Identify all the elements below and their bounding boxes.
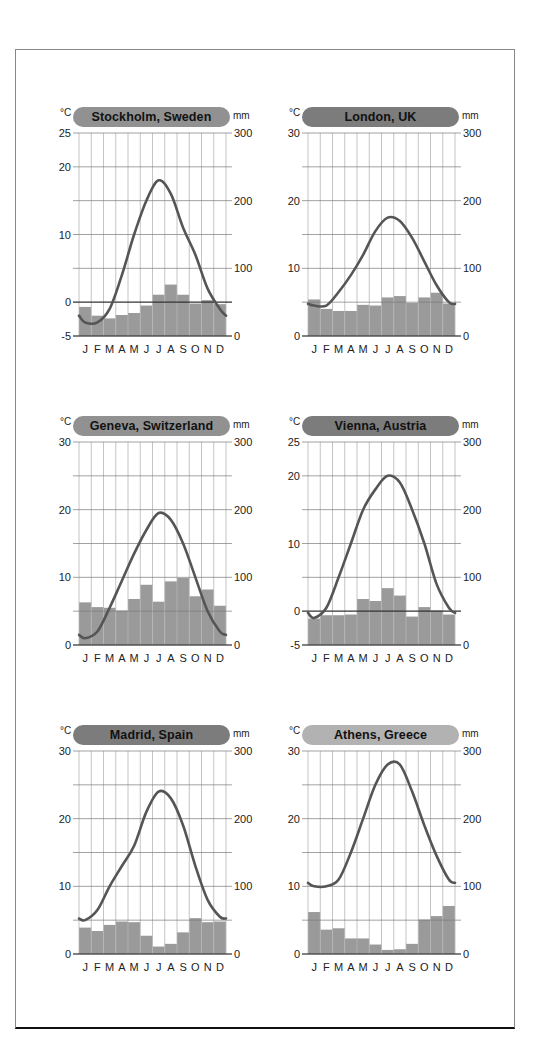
precip-bar xyxy=(418,919,430,954)
month-label: A xyxy=(396,961,404,973)
month-label: F xyxy=(94,652,101,664)
month-label: J xyxy=(156,961,162,973)
precip-bar xyxy=(116,922,128,954)
precip-bar xyxy=(140,306,152,336)
month-label: F xyxy=(94,961,101,973)
chart-plot: -501020250100200300JFMAMJJASOND xyxy=(287,414,507,704)
precip-bar xyxy=(153,602,165,645)
temp-tick-label: 30 xyxy=(59,745,71,757)
temp-tick-label: 10 xyxy=(288,262,300,274)
month-label: S xyxy=(408,961,415,973)
month-label: A xyxy=(347,961,355,973)
precip-bar xyxy=(382,588,394,645)
precip-tick-label: 200 xyxy=(234,195,252,207)
precip-bar xyxy=(165,285,177,336)
month-label: O xyxy=(420,961,429,973)
temp-tick-label: 20 xyxy=(288,470,300,482)
climate-chart-athens: Athens, Greece°Cmm01020300100200300JFMAM… xyxy=(287,723,507,1013)
precip-bar xyxy=(333,311,345,336)
temp-tick-label: 20 xyxy=(288,195,300,207)
month-label: J xyxy=(82,961,88,973)
month-label: M xyxy=(130,343,139,355)
precip-bar xyxy=(394,949,406,954)
precip-tick-label: 0 xyxy=(234,639,240,651)
temp-tick-label: 0 xyxy=(294,605,300,617)
precip-tick-label: 100 xyxy=(463,571,481,583)
month-label: S xyxy=(179,652,186,664)
month-label: J xyxy=(144,652,150,664)
month-label: O xyxy=(191,343,200,355)
month-label: F xyxy=(323,343,330,355)
precip-tick-label: 200 xyxy=(463,195,481,207)
month-label: J xyxy=(385,343,391,355)
precip-bar xyxy=(308,619,320,645)
month-label: M xyxy=(334,343,343,355)
precip-tick-label: 100 xyxy=(234,571,252,583)
month-label: J xyxy=(144,343,150,355)
precip-bar xyxy=(357,305,369,336)
precip-bar xyxy=(345,938,357,954)
month-label: M xyxy=(105,343,114,355)
month-label: M xyxy=(334,652,343,664)
temp-tick-label: 25 xyxy=(288,436,300,448)
precip-tick-label: 300 xyxy=(463,127,481,139)
temp-tick-label: 0 xyxy=(65,639,71,651)
precip-tick-label: 300 xyxy=(463,436,481,448)
temp-tick-label: 20 xyxy=(59,813,71,825)
month-label: F xyxy=(323,961,330,973)
precip-bar xyxy=(202,922,214,954)
temp-tick-label: 10 xyxy=(59,880,71,892)
month-label: F xyxy=(323,652,330,664)
precip-bar xyxy=(308,912,320,954)
month-label: J xyxy=(156,343,162,355)
chart-plot: 01020300100200300JFMAMJJASOND xyxy=(58,723,278,1013)
month-label: J xyxy=(385,961,391,973)
month-label: J xyxy=(82,343,88,355)
month-label: J xyxy=(385,652,391,664)
month-label: J xyxy=(311,652,317,664)
precip-bar xyxy=(189,918,201,954)
temp-tick-label: 20 xyxy=(59,504,71,516)
precip-tick-label: 0 xyxy=(463,330,469,342)
precip-bar xyxy=(382,950,394,954)
precip-bar xyxy=(104,318,116,336)
month-label: F xyxy=(94,343,101,355)
month-label: D xyxy=(216,652,224,664)
month-label: N xyxy=(204,652,212,664)
precip-tick-label: 200 xyxy=(234,504,252,516)
chart-plot: 01020300100200300JFMAMJJASOND xyxy=(287,723,507,1013)
climate-chart-vienna: Vienna, Austria°Cmm-501020250100200300JF… xyxy=(287,414,507,704)
precip-bar xyxy=(443,304,455,336)
climate-chart-stockholm: Stockholm, Sweden°Cmm-501020250100200300… xyxy=(58,105,278,395)
temp-tick-label: 10 xyxy=(59,229,71,241)
temp-tick-label: -5 xyxy=(61,330,71,342)
chart-plot: 01020300100200300JFMAMJJASOND xyxy=(58,414,278,704)
temp-tick-label: 20 xyxy=(59,161,71,173)
temp-tick-label: 0 xyxy=(294,948,300,960)
precip-bar xyxy=(202,300,214,336)
month-label: A xyxy=(167,343,175,355)
precip-tick-label: 0 xyxy=(234,948,240,960)
month-label: D xyxy=(445,343,453,355)
precip-bar xyxy=(104,608,116,645)
temp-tick-label: 30 xyxy=(59,436,71,448)
month-label: M xyxy=(105,961,114,973)
temp-tick-label: 0 xyxy=(65,296,71,308)
climate-chart-london: London, UK°Cmm01020300100200300JFMAMJJAS… xyxy=(287,105,507,395)
precip-bar xyxy=(177,932,189,954)
month-label: D xyxy=(445,961,453,973)
precip-bar xyxy=(116,610,128,645)
precip-tick-label: 200 xyxy=(463,504,481,516)
precip-tick-label: 100 xyxy=(463,262,481,274)
precip-tick-label: 300 xyxy=(463,745,481,757)
month-label: J xyxy=(311,343,317,355)
temp-tick-label: -5 xyxy=(290,639,300,651)
month-label: O xyxy=(420,652,429,664)
month-label: J xyxy=(144,961,150,973)
precip-bar xyxy=(345,311,357,336)
precip-tick-label: 0 xyxy=(463,948,469,960)
month-label: S xyxy=(179,961,186,973)
precip-tick-label: 200 xyxy=(463,813,481,825)
temp-tick-label: 30 xyxy=(288,127,300,139)
precip-bar xyxy=(357,938,369,954)
